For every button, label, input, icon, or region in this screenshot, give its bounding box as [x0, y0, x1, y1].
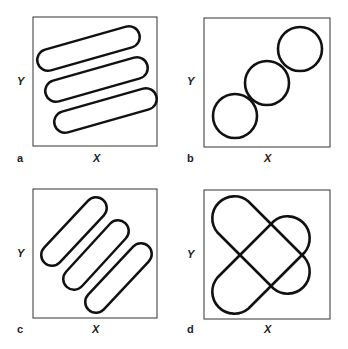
x-axis-label: X [91, 323, 100, 335]
plot-box [204, 190, 330, 319]
panel-c: Y c X [17, 189, 157, 335]
x-axis-label: X [263, 152, 272, 164]
y-axis-label: Y [187, 75, 196, 87]
panel-b: Y b X [187, 18, 330, 164]
x-axis-label: X [92, 152, 101, 164]
panel-label: d [187, 323, 194, 335]
panel-label: b [187, 152, 194, 164]
panel-label: c [17, 323, 23, 335]
x-axis-label: X [263, 323, 272, 335]
y-axis-label: Y [17, 247, 26, 259]
diagram-canvas: Y a X Y b X Y c X [0, 0, 348, 349]
panel-d: Y d X [187, 190, 330, 335]
panel-label: a [17, 152, 24, 164]
plot-box [204, 18, 330, 147]
y-axis-label: Y [187, 248, 196, 260]
y-axis-label: Y [17, 75, 26, 87]
panel-a: Y a X [17, 17, 157, 164]
